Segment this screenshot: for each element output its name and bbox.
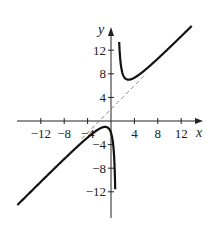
y-tick-label: −12 xyxy=(86,184,106,199)
y-tick-label: −4 xyxy=(92,137,106,152)
y-tick-label: 12 xyxy=(93,43,106,58)
y-tick-label: 8 xyxy=(100,66,107,81)
y-tick-label: −8 xyxy=(92,161,106,176)
function-graph: x y −12−8−44812−12−8−44812 xyxy=(0,0,216,229)
x-axis-arrow-icon xyxy=(195,118,203,124)
x-tick-label: 8 xyxy=(155,126,162,141)
x-axis-label: x xyxy=(195,125,203,140)
x-tick-label: 12 xyxy=(175,126,188,141)
y-axis-arrow-icon xyxy=(108,27,114,36)
x-tick-label: −12 xyxy=(31,126,51,141)
axes: x y xyxy=(17,22,203,218)
y-axis-label: y xyxy=(96,22,105,37)
x-tick-label: −8 xyxy=(57,126,71,141)
curve-branch-2 xyxy=(119,26,192,80)
y-tick-label: 4 xyxy=(100,90,107,105)
x-tick-label: 4 xyxy=(131,126,138,141)
